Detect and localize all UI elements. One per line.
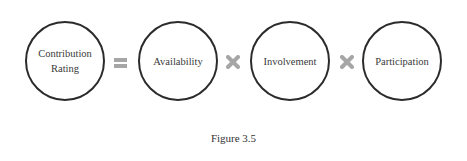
involvement-label: Involvement — [263, 54, 316, 69]
participation-label: Participation — [375, 54, 429, 69]
circle-participation: Participation — [362, 21, 442, 101]
circle-involvement: Involvement — [250, 21, 330, 101]
contribution-rating-label-line2: Rating — [38, 61, 92, 76]
multiply-icon — [340, 55, 354, 69]
multiply-icon — [226, 55, 240, 69]
circle-availability: Availability — [138, 21, 218, 101]
figure-caption: Figure 3.5 — [0, 132, 467, 144]
circle-contribution-rating: Contribution Rating — [25, 21, 105, 101]
availability-label: Availability — [153, 54, 202, 69]
equals-icon — [114, 56, 127, 70]
contribution-rating-label-line1: Contribution — [38, 46, 92, 61]
